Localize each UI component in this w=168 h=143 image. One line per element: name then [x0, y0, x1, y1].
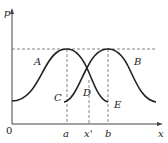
tick-a: a	[63, 128, 69, 139]
curve-b	[64, 49, 156, 102]
x-axis-arrow	[157, 122, 163, 126]
tick-b: b	[105, 128, 111, 139]
label-b-curve: B	[133, 56, 141, 67]
diagram: p x 0 A B C D E a x' b	[0, 0, 168, 143]
y-axis-label: p	[4, 7, 11, 18]
y-axis-arrow	[10, 8, 14, 14]
label-e: E	[113, 99, 122, 110]
tick-xprime: x'	[84, 128, 92, 139]
label-c: C	[54, 92, 62, 103]
x-axis-label: x	[158, 128, 164, 139]
label-a-curve: A	[33, 56, 41, 67]
origin-label: 0	[6, 125, 12, 136]
label-d: D	[82, 87, 91, 98]
